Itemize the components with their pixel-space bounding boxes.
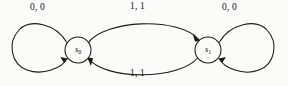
state-diagram: s0 s1 0, 0 1, 1 1, 1 0, 0 bbox=[0, 0, 288, 86]
transition-label-bottom-arc: 1, 1 bbox=[130, 68, 145, 78]
transition-loop-left bbox=[12, 24, 67, 72]
transition-loop-right bbox=[219, 24, 274, 72]
transition-label-top-arc: 1, 1 bbox=[130, 1, 145, 11]
transition-label-loop-left: 0, 0 bbox=[30, 2, 45, 12]
transition-top-arc bbox=[88, 24, 200, 43]
transition-label-loop-right: 0, 0 bbox=[222, 2, 237, 12]
